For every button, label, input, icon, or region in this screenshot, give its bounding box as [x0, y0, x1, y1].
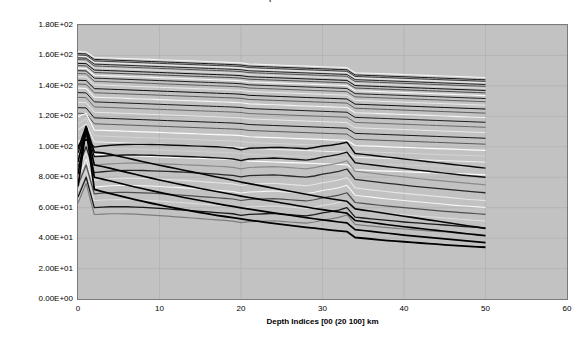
chart-line-lat-45	[78, 113, 486, 144]
y-tick-label: 1.20E+02	[0, 112, 73, 120]
plot-curves	[78, 25, 567, 299]
y-tick-label: 1.80E+02	[0, 21, 73, 29]
y-tick-label: 2.00E+01	[0, 265, 73, 273]
x-tick-label: 30	[303, 304, 343, 313]
x-tick-label: 20	[221, 304, 261, 313]
chart-line-lat-51	[78, 97, 486, 127]
chart-line-lat-47	[78, 108, 486, 139]
y-tick-label: 1.40E+02	[0, 82, 73, 90]
x-tick-label: 40	[384, 304, 424, 313]
x-tick-label: 50	[466, 304, 506, 313]
y-tick-label: 8.00E+01	[0, 173, 73, 181]
x-tick-label: 0	[58, 304, 98, 313]
x-tick-label: 10	[140, 304, 180, 313]
x-tick-label: 60	[547, 304, 583, 313]
chart-line-lat-53	[78, 93, 486, 123]
plot-area	[77, 24, 568, 300]
chart-title: Interpolation: Linear	[0, 0, 583, 2]
y-tick-label: 1.00E+02	[0, 143, 73, 151]
x-axis-title: Depth Indices [00 (20 100] km	[77, 317, 568, 326]
x-axis-tick-labels: 0102030405060	[77, 304, 568, 316]
y-tick-label: 4.00E+01	[0, 234, 73, 242]
chart-figure: Interpolation: Linear 0.00E+002.00E+014.…	[0, 0, 583, 339]
y-tick-label: 6.00E+01	[0, 204, 73, 212]
y-tick-label: 1.60E+02	[0, 51, 73, 59]
y-axis-tick-labels: 0.00E+002.00E+014.00E+016.00E+018.00E+01…	[0, 24, 73, 300]
y-tick-label: 0.00E+00	[0, 295, 73, 303]
